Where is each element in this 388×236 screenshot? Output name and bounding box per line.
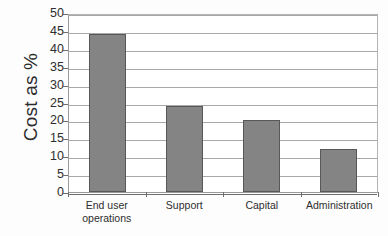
y-axis-tick-labels: 50454035302520151050 — [36, 7, 64, 200]
y-axis-tick-label: 15 — [36, 132, 64, 145]
x-axis-label-line: Administration — [301, 199, 379, 212]
bar-slot — [69, 15, 146, 192]
x-axis-tick-mark — [146, 192, 147, 197]
y-axis-tick-mark — [63, 139, 68, 140]
bar[interactable] — [89, 34, 125, 192]
x-axis-category-label: End useroperations — [68, 199, 146, 224]
y-axis-tick-label: 30 — [36, 79, 64, 92]
y-axis-tick-mark — [63, 121, 68, 122]
y-axis-tick-label: 50 — [36, 7, 64, 20]
y-axis-tick-label: 25 — [36, 97, 64, 110]
y-axis-tick-mark — [63, 68, 68, 69]
x-axis-category-label: Support — [146, 199, 224, 224]
bar-chart-figure: Cost as % 50454035302520151050 End usero… — [0, 0, 388, 236]
y-axis-tick-mark — [63, 175, 68, 176]
bar-slot — [300, 15, 377, 192]
bar[interactable] — [320, 149, 356, 192]
x-axis-tick-mark — [301, 192, 302, 197]
y-axis-tick-label: 35 — [36, 61, 64, 74]
y-axis-tick-mark — [63, 14, 68, 15]
x-axis-label-line: Capital — [223, 199, 301, 212]
bar[interactable] — [243, 120, 279, 192]
x-axis-tick-marks — [68, 192, 378, 198]
x-axis-category-labels: End useroperationsSupportCapitalAdminist… — [68, 199, 378, 224]
x-axis-tick-mark — [223, 192, 224, 197]
x-axis-category-label: Capital — [223, 199, 301, 224]
y-axis-tick-mark — [63, 50, 68, 51]
y-axis-tick-mark — [63, 32, 68, 33]
x-axis-label-line: End user — [68, 199, 146, 212]
x-axis-tick-mark — [68, 192, 69, 197]
y-axis-tick-label: 10 — [36, 150, 64, 163]
bars-layer — [69, 15, 377, 192]
x-axis-label-line: Support — [146, 199, 224, 212]
y-axis-tick-mark — [63, 193, 68, 194]
y-axis-tick-label: 0 — [36, 186, 64, 199]
bar-slot — [223, 15, 300, 192]
x-axis-category-label: Administration — [301, 199, 379, 224]
y-axis-tick-label: 20 — [36, 114, 64, 127]
y-axis-tick-label: 40 — [36, 43, 64, 56]
plot-area — [68, 14, 378, 193]
bar-slot — [146, 15, 223, 192]
y-axis-tick-label: 45 — [36, 25, 64, 38]
x-axis-label-line: operations — [68, 212, 146, 225]
y-axis-tick-mark — [63, 86, 68, 87]
y-axis-tick-label: 5 — [36, 168, 64, 181]
bar[interactable] — [166, 106, 202, 192]
y-axis-tick-mark — [63, 157, 68, 158]
y-axis-tick-mark — [63, 104, 68, 105]
x-axis-tick-mark — [378, 192, 379, 197]
